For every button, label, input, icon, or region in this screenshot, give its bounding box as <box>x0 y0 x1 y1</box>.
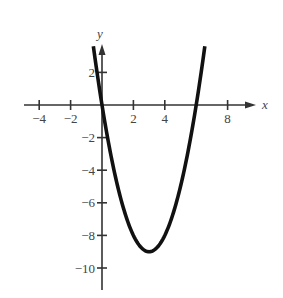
y-axis-arrow-icon <box>99 44 106 55</box>
x-tick-label: −4 <box>32 111 46 126</box>
x-axis-label: x <box>261 97 268 112</box>
x-axis-arrow-icon <box>245 102 256 109</box>
parabola-chart: −4−22482−2−4−6−8−10 x y <box>0 0 283 298</box>
tick-labels: −4−22482−2−4−6−8−10 <box>32 65 231 276</box>
x-tick-label: −2 <box>64 111 78 126</box>
y-axis-label: y <box>95 26 103 41</box>
x-tick-label: 2 <box>130 111 137 126</box>
x-tick-label: 8 <box>224 111 231 126</box>
y-tick-label: −2 <box>81 130 95 145</box>
y-tick-label: −8 <box>81 228 95 243</box>
x-tick-label: 4 <box>162 111 169 126</box>
y-tick-label: 2 <box>89 65 96 80</box>
y-tick-label: −6 <box>81 195 95 210</box>
parabola-curve <box>93 46 204 251</box>
axes <box>24 44 256 290</box>
y-tick-label: −10 <box>75 261 95 276</box>
y-tick-label: −4 <box>81 163 95 178</box>
